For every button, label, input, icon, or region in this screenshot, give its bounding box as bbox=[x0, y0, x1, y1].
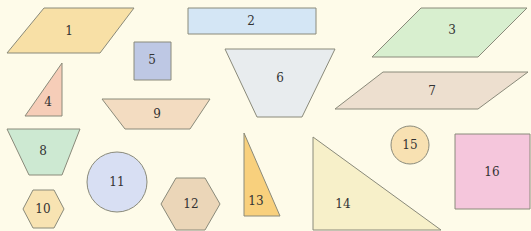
shape-label: 15 bbox=[402, 138, 417, 152]
shape-label: 1 bbox=[65, 24, 73, 38]
shape-label: 10 bbox=[35, 202, 50, 216]
shape-square-16: 16 bbox=[455, 134, 530, 209]
shape-label: 14 bbox=[335, 197, 351, 211]
shape-square-5: 5 bbox=[134, 42, 171, 80]
shape-parallelogram-1: 1 bbox=[7, 8, 134, 53]
shape-rectangle-2: 2 bbox=[188, 8, 316, 34]
shape-layer: 12345678910111213141516 bbox=[7, 8, 530, 230]
shape-label: 5 bbox=[148, 53, 156, 67]
shape-label: 3 bbox=[448, 23, 456, 37]
shape-circle-11: 11 bbox=[87, 152, 147, 212]
shape-trapezoid-8: 8 bbox=[7, 129, 80, 175]
shape-right-triangle-13: 13 bbox=[244, 133, 280, 216]
shape-trapezoid-6: 6 bbox=[225, 49, 335, 117]
shape-label: 6 bbox=[276, 71, 284, 85]
shape-label: 7 bbox=[428, 84, 436, 98]
shapes-diagram: 12345678910111213141516 bbox=[0, 0, 531, 231]
shape-label: 2 bbox=[247, 14, 255, 28]
shape-label: 11 bbox=[109, 175, 124, 189]
shape-label: 9 bbox=[153, 107, 161, 121]
shape-right-triangle-4: 4 bbox=[25, 63, 62, 116]
shape-label: 16 bbox=[484, 165, 499, 179]
shape-label: 13 bbox=[248, 194, 263, 208]
shape-label: 12 bbox=[183, 197, 198, 211]
shape-parallelogram-3: 3 bbox=[372, 8, 527, 57]
shape-label: 8 bbox=[39, 144, 47, 158]
shape-hexagon-12: 12 bbox=[161, 178, 220, 230]
shape-hexagon-10: 10 bbox=[23, 190, 64, 228]
shape-circle-15: 15 bbox=[391, 126, 429, 164]
shape-parallelogram-7: 7 bbox=[335, 72, 528, 109]
shape-trapezoid-9: 9 bbox=[102, 99, 210, 129]
shape-label: 4 bbox=[44, 95, 52, 109]
